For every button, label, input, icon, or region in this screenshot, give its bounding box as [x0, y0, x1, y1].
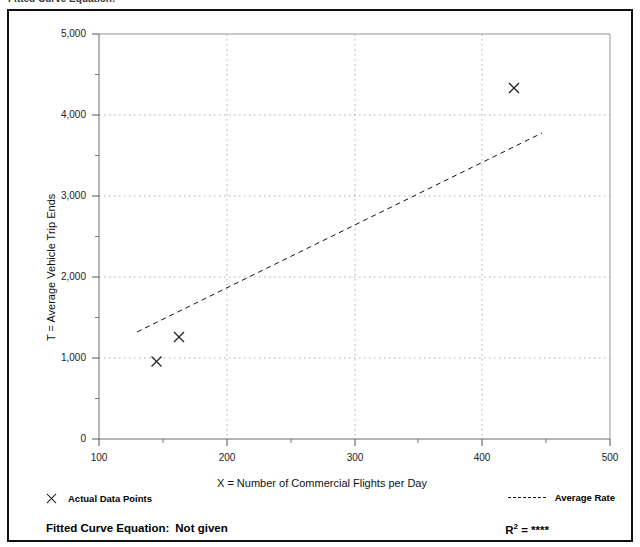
series-average-rate-line [137, 133, 542, 332]
r-squared-exponent: 2 [514, 522, 518, 531]
x-tick-label: 400 [462, 452, 502, 463]
r-squared-equals: = [521, 524, 528, 536]
plot-border [99, 34, 610, 439]
x-tick-label: 200 [207, 452, 247, 463]
chart-plot-svg [9, 11, 635, 544]
series-actual-data-points [152, 83, 520, 367]
data-point-marker [174, 332, 184, 342]
data-point-marker [509, 83, 519, 93]
legend-label-actual-data-points: Actual Data Points [68, 493, 152, 504]
figure-frame: 5,000 4,000 3,000 2,000 1,000 0 100 200 … [7, 9, 633, 542]
r-squared-value: **** [531, 524, 549, 536]
legend-item-actual-data-points: Actual Data Points [45, 492, 152, 505]
r-squared-label: R [505, 524, 513, 536]
chart-footer: Fitted Curve Equation:Not given R2 = ***… [9, 522, 635, 546]
legend-item-average-rate: Average Rate [508, 492, 615, 503]
x-axis-title: X = Number of Commercial Flights per Day [9, 477, 635, 489]
clipped-header-left-text: Fitted Curve Equation: [8, 0, 115, 4]
legend-label-average-rate: Average Rate [555, 492, 615, 503]
plot-gridlines [99, 34, 610, 439]
x-tick-label: 100 [79, 452, 119, 463]
fitted-curve-equation-value: Not given [175, 522, 227, 534]
y-tick-label: 1,000 [40, 352, 86, 363]
y-tick-label: 5,000 [40, 28, 86, 39]
y-tick-label: 4,000 [40, 109, 86, 120]
dashed-line-icon [508, 497, 546, 499]
fitted-curve-equation-label: Fitted Curve Equation: [46, 522, 169, 534]
data-point-marker [152, 357, 162, 367]
x-tick-label: 500 [590, 452, 630, 463]
y-tick-label: 0 [40, 433, 86, 444]
x-tick-label: 300 [335, 452, 375, 463]
clipped-page-header: Fitted Curve Equation: [0, 0, 640, 9]
x-marker-icon [45, 492, 58, 505]
y-axis-title: T = Average Vehicle Trip Ends [45, 194, 57, 341]
x-axis-ticks [99, 439, 610, 446]
y-axis-ticks [92, 34, 99, 439]
r-squared-annotation: R2 = **** [505, 522, 549, 536]
chart-legend: Actual Data Points Average Rate [9, 492, 635, 514]
fitted-curve-equation: Fitted Curve Equation:Not given [46, 522, 228, 534]
scatter-chart: 5,000 4,000 3,000 2,000 1,000 0 100 200 … [9, 11, 635, 544]
